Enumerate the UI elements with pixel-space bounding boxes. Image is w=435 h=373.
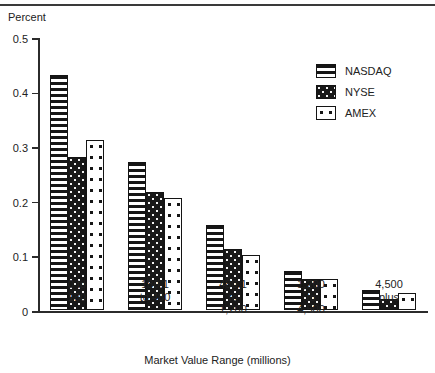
y-tick: 0.3 <box>32 147 38 149</box>
x-tick-label: 1,200to4,500 <box>272 278 350 316</box>
legend-label: NASDAQ <box>345 65 391 77</box>
legend: NASDAQNYSEAMEX <box>316 60 391 123</box>
y-tick: 0.1 <box>32 256 38 258</box>
x-tick-label-line: 4,500 <box>272 303 350 316</box>
x-tick-label-line: 0 to <box>38 278 116 291</box>
x-tick-label-line: 1,200 <box>194 303 272 316</box>
y-tick-label: 0.3 <box>13 142 28 154</box>
x-tick-label-line: to <box>272 291 350 304</box>
y-tick-label: 0.2 <box>13 197 28 209</box>
x-tick-label-line: to 480 <box>116 291 194 304</box>
x-tick-label: 0 to180 <box>38 278 116 303</box>
bar-nasdaq <box>50 75 68 310</box>
x-tick-label-line: 1,200 <box>272 278 350 291</box>
y-tick-label: 0.4 <box>13 87 28 99</box>
x-tick-label: 180.1to 480 <box>116 278 194 303</box>
x-axis-title: Market Value Range (millions) <box>0 354 435 366</box>
y-tick: 0.4 <box>32 93 38 95</box>
legend-label: AMEX <box>345 107 376 119</box>
x-tick-label-line: to <box>194 291 272 304</box>
y-tick-label: 0.1 <box>13 251 28 263</box>
legend-swatch-nasdaq <box>316 64 336 78</box>
bar-group <box>50 37 104 310</box>
y-tick: 0.2 <box>32 202 38 204</box>
legend-swatch-amex <box>316 106 336 120</box>
legend-swatch-nyse <box>316 85 336 99</box>
x-tick-label-line: 480.1 <box>194 278 272 291</box>
y-axis-line <box>38 38 40 311</box>
header-divider <box>0 4 435 6</box>
legend-item-nyse: NYSE <box>316 81 391 102</box>
x-tick-label-line: plus <box>350 291 428 304</box>
y-axis-title: Percent <box>8 11 46 23</box>
x-tick-label-line: 180.1 <box>116 278 194 291</box>
x-tick-label-line: 4,500 <box>350 278 428 291</box>
bar-group <box>128 37 182 310</box>
x-tick-label: 4,500plus <box>350 278 428 303</box>
legend-label: NYSE <box>345 86 375 98</box>
y-tick: 0.5 <box>32 38 38 40</box>
bar-group <box>206 37 260 310</box>
y-tick: 0 <box>32 311 38 313</box>
x-tick-label: 480.1to1,200 <box>194 278 272 316</box>
y-tick-label: 0.5 <box>13 33 28 45</box>
legend-item-amex: AMEX <box>316 102 391 123</box>
legend-item-nasdaq: NASDAQ <box>316 60 391 81</box>
bar-chart-figure: Percent 00.10.20.30.40.5 0 to180180.1to … <box>0 0 435 373</box>
x-tick-label-line: 180 <box>38 291 116 304</box>
y-tick-label: 0 <box>22 306 28 318</box>
